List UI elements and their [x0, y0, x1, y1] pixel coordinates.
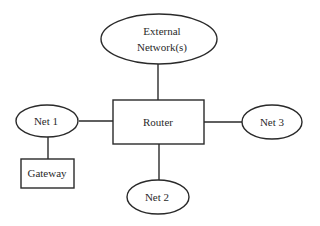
external-network-label-line1: External	[143, 25, 180, 37]
net1-label: Net 1	[34, 115, 58, 127]
router-label: Router	[143, 116, 173, 128]
node-net2: Net 2	[127, 180, 189, 214]
external-network-label-line2: Network(s)	[137, 41, 187, 54]
node-external-network: External Network(s)	[101, 14, 217, 64]
net3-label: Net 3	[260, 116, 285, 128]
node-gateway: Gateway	[21, 159, 74, 188]
external-network-ellipse	[101, 14, 217, 64]
node-router: Router	[113, 100, 204, 144]
network-diagram: External Network(s) Router Net 1 Gateway…	[0, 0, 320, 226]
gateway-label: Gateway	[27, 167, 67, 179]
node-net3: Net 3	[242, 105, 302, 139]
node-net1: Net 1	[16, 105, 78, 137]
net2-label: Net 2	[145, 191, 169, 203]
